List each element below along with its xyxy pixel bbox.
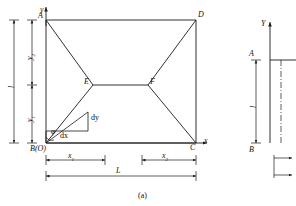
vertex-label-b: B(O)	[30, 145, 46, 153]
panel-a-internal-members	[46, 20, 196, 143]
differential-label-dy: dy	[91, 114, 99, 122]
panel-b-dimension-label-l: l	[250, 106, 258, 108]
dimension-l-left	[9, 20, 19, 143]
panel-b-dimension-l	[251, 60, 261, 143]
dimension-label-y2: y2	[26, 54, 36, 60]
node-label-f: F	[150, 78, 155, 86]
vertex-label-a: A	[38, 12, 43, 20]
angle-label-phi: φ	[51, 128, 55, 136]
dimension-y2-y1-left	[27, 20, 37, 143]
engineering-diagram	[0, 0, 296, 206]
panel-a-frame-rectangle	[46, 20, 196, 143]
vertex-label-c: C	[190, 144, 195, 152]
dimension-L-bottom	[46, 171, 196, 181]
dimension-label-l-left: l	[8, 86, 16, 88]
panel-b-y-axis-label: Y	[261, 20, 265, 28]
panel-b-point-a: A	[249, 50, 254, 58]
node-label-e: E	[84, 78, 89, 86]
dimension-label-x2: x2	[162, 152, 168, 162]
panel-a-x-axis-label: x	[204, 137, 208, 145]
differential-label-dx: dx	[60, 132, 68, 140]
dimension-label-x1: x1	[68, 152, 74, 162]
dimension-label-L: L	[116, 167, 120, 175]
figure-caption: (a)	[138, 191, 147, 200]
dimension-label-y1: y1	[26, 116, 36, 122]
panel-b-point-b: B	[249, 146, 254, 154]
panel-b-bottom-dimension	[274, 155, 292, 178]
vertex-label-d: D	[198, 11, 204, 19]
